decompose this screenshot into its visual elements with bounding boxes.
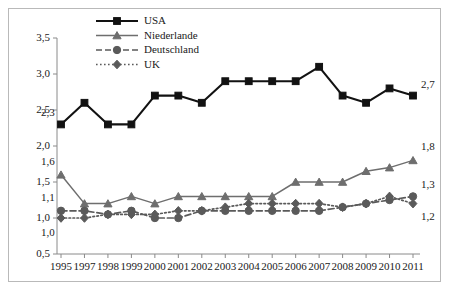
legend-label: Deutschland: [144, 43, 199, 55]
y-axis-tick-label: 3,5: [14, 31, 50, 43]
chart-axes: [53, 38, 420, 258]
series-niederlande: [57, 157, 417, 207]
x-axis-tick-label: 2011: [397, 260, 429, 272]
data-value-label: 1,2: [421, 210, 435, 222]
y-axis-tick-label: 3,0: [14, 67, 50, 79]
data-value-label: 1,1: [41, 191, 55, 203]
legend-label: UK: [144, 58, 160, 70]
legend-item-usa: [96, 18, 138, 25]
chart-figure: 3,53,02,52,01,51,00,51995199719981999200…: [0, 0, 451, 298]
y-axis-tick-label: 1,5: [14, 175, 50, 187]
y-axis-tick-label: 0,5: [14, 247, 50, 259]
y-axis-tick-label: 1,0: [14, 211, 50, 223]
legend-label: USA: [144, 14, 166, 26]
data-value-label: 2,7: [421, 78, 435, 90]
data-value-label: 1,6: [41, 155, 55, 167]
legend-item-deutschland: [96, 46, 138, 53]
data-value-label: 1,8: [421, 140, 435, 152]
legend-item-uk: [96, 60, 138, 69]
data-value-label: 1,0: [41, 226, 55, 238]
data-value-label: 2,3: [41, 106, 55, 118]
series-usa: [58, 63, 417, 127]
legend-item-niederlande: [96, 32, 138, 39]
legend-label: Niederlande: [144, 29, 198, 41]
line-chart-plot: [0, 0, 451, 298]
y-axis-tick-label: 2,0: [14, 139, 50, 151]
data-value-label: 1,3: [421, 178, 435, 190]
